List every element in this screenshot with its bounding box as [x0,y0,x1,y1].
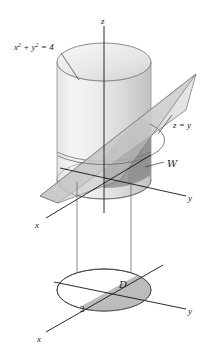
lower-xy-plane-figure [46,258,200,332]
axis-y-label-lower: y [187,306,192,316]
plane-equation-label: z = y [172,120,191,130]
math-figure: x2 + y2 = 4 z = y W D 2 z x y x y [0,0,206,343]
region-D-label: D [118,279,127,290]
axis-x-label-upper: x [34,220,39,230]
solid-region-label: W [167,158,178,169]
axis-z-label: z [100,16,105,26]
figure-canvas: x2 + y2 = 4 z = y W D 2 z x y x y [0,0,206,343]
cylinder-equation-label: x2 + y2 = 4 [13,42,54,53]
axis-x-label-lower: x [36,334,41,343]
cyl-eq-rhs: = 4 [39,42,55,52]
cyl-eq-plus-y: + y [21,42,36,52]
axis-y-label-upper: y [187,193,192,203]
radius-tick-label: 2 [80,304,85,314]
